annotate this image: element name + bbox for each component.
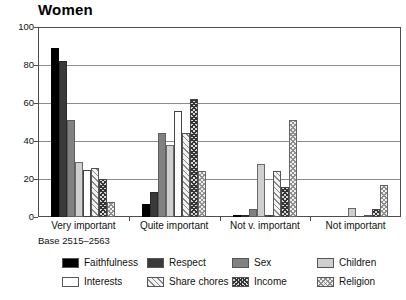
bar (59, 61, 67, 217)
y-axis: 020406080100 (0, 27, 34, 217)
legend-item: Respect (147, 253, 232, 272)
bar (380, 185, 388, 217)
bar-chart: Women 020406080100 Very importantQuite i… (0, 0, 406, 300)
legend-label: Income (254, 276, 287, 287)
bar (51, 48, 59, 217)
bar (142, 204, 150, 217)
x-tick-mark (220, 217, 221, 221)
x-axis: Very importantQuite importantNot v. impo… (38, 220, 401, 234)
legend-swatch-icon (317, 258, 334, 268)
bar (99, 179, 107, 217)
bar (273, 171, 281, 217)
chart-title: Women (38, 2, 93, 18)
y-tick-mark (34, 217, 38, 218)
x-tick-label: Quite important (140, 220, 208, 232)
bar (182, 133, 190, 217)
bar (158, 133, 166, 217)
legend-item: Income (232, 272, 317, 291)
legend-swatch-icon (232, 258, 249, 268)
legend-label: Sex (254, 257, 271, 268)
base-note: Base 2515–2563 (38, 235, 110, 246)
y-tick-label: 80 (4, 60, 34, 70)
legend-label: Interests (84, 276, 122, 287)
bars-layer (38, 27, 401, 217)
legend-label: Share chores (169, 276, 228, 287)
bar (150, 192, 158, 217)
bar-group (233, 27, 297, 217)
bar (67, 120, 75, 217)
bar (75, 162, 83, 217)
legend-swatch-icon (62, 277, 79, 287)
legend-item: Children (317, 253, 402, 272)
bar (91, 168, 99, 217)
bar-group (324, 27, 388, 217)
bar (190, 99, 198, 217)
legend-label: Children (339, 257, 376, 268)
legend-label: Religion (339, 276, 375, 287)
y-tick-label: 60 (4, 98, 34, 108)
bar-group (51, 27, 115, 217)
x-tick-label: Not v. important (230, 220, 300, 232)
y-tick-label: 100 (4, 22, 34, 32)
legend-label: Respect (169, 257, 206, 268)
legend-swatch-icon (147, 277, 164, 287)
bar (174, 111, 182, 217)
bar (372, 209, 380, 217)
legend-swatch-icon (317, 277, 334, 287)
bar (83, 170, 91, 218)
x-tick-label: Not important (326, 220, 386, 232)
legend-item: Interests (62, 272, 147, 291)
bar (198, 171, 206, 217)
bar (249, 209, 257, 217)
bar (265, 215, 273, 217)
legend-item: Sex (232, 253, 317, 272)
bar (289, 120, 297, 217)
legend-swatch-icon (62, 258, 79, 268)
x-tick-label: Very important (51, 220, 115, 232)
legend-swatch-icon (232, 277, 249, 287)
bar (233, 215, 241, 217)
legend-item: Faithfulness (62, 253, 147, 272)
y-tick-label: 20 (4, 174, 34, 184)
bar (107, 202, 115, 217)
x-tick-mark (129, 217, 130, 221)
bar (281, 187, 289, 217)
chart-legend: FaithfulnessRespectSexChildrenInterestsS… (62, 253, 402, 291)
legend-item: Religion (317, 272, 402, 291)
bar (257, 164, 265, 217)
x-tick-mark (310, 217, 311, 221)
legend-swatch-icon (147, 258, 164, 268)
y-tick-label: 40 (4, 136, 34, 146)
legend-label: Faithfulness (84, 257, 138, 268)
bar (348, 208, 356, 218)
legend-item: Share chores (147, 272, 232, 291)
bar (166, 145, 174, 217)
bar (364, 215, 372, 217)
y-tick-label: 0 (4, 212, 34, 222)
bar-group (142, 27, 206, 217)
bar (241, 215, 249, 217)
